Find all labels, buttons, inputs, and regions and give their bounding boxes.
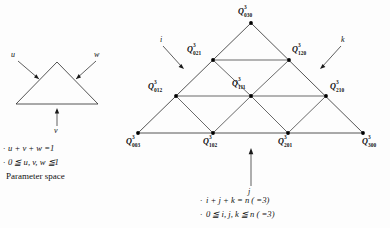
q-sup: 3 (368, 134, 371, 140)
q-sup: 3 (238, 76, 241, 82)
q-sup: 3 (244, 4, 247, 10)
q-sup: 3 (298, 42, 301, 48)
control-point-label-012: Q3012 (148, 81, 165, 93)
arrow-u (18, 61, 39, 79)
figure-svg (0, 0, 390, 228)
parameter-constraint-range-bullet: · (3, 158, 5, 167)
q-sup: 3 (284, 134, 287, 140)
q-sub: 120 (298, 50, 306, 56)
parameter-space-triangle (16, 62, 98, 104)
arrow-i (163, 46, 184, 69)
axis-label-k: k (341, 36, 345, 44)
control-point-label-300: Q3300 (362, 136, 379, 148)
index-constraint-range: 0 ≦ i, j, k ≦ n ( =3) (206, 210, 275, 219)
control-point-label-111: Q3111 (232, 78, 248, 90)
q-sup: 3 (154, 79, 157, 85)
q-sub: 021 (193, 50, 201, 56)
q-sub: 003 (132, 142, 140, 148)
q-sub: 210 (336, 87, 344, 93)
index-constraint-sum: i + j + k = n ( =3) (206, 196, 269, 205)
q-sub: 111 (238, 84, 246, 90)
index-constraint-range-bullet: · (200, 210, 202, 219)
q-sup: 3 (336, 79, 339, 85)
control-point-label-030: Q3030 (238, 6, 255, 18)
q-sub: 102 (209, 142, 217, 148)
arrow-label-u: u (11, 51, 15, 59)
figure-canvas: u w v u + v + w =1 · 0 ≦ u, v, w ≦1 · Pa… (0, 0, 390, 228)
parameter-constraint-range: 0 ≦ u, v, w ≦1 (8, 158, 59, 167)
index-constraint-sum-bullet: · (200, 196, 202, 205)
q-sub: 300 (368, 142, 376, 148)
parameter-constraint-sum-bullet: · (3, 144, 5, 153)
arrow-k (320, 46, 341, 69)
q-sup: 3 (193, 42, 196, 48)
control-point-label-021: Q3021 (187, 44, 204, 56)
arrow-w (76, 61, 96, 79)
q-sub: 201 (284, 142, 292, 148)
arrow-label-v: v (54, 127, 58, 135)
arrow-j (249, 148, 254, 186)
control-point-label-102: Q3102 (203, 136, 220, 148)
parameter-constraint-sum: u + v + w =1 (8, 144, 54, 153)
arrow-v (55, 108, 59, 126)
q-sub: 012 (154, 87, 162, 93)
q-sub: 030 (244, 12, 252, 18)
parameter-space-caption: Parameter space (6, 172, 65, 181)
control-point-label-003: Q3003 (126, 136, 143, 148)
q-sup: 3 (132, 134, 135, 140)
axis-label-i: i (160, 36, 162, 44)
bezier-triangle-net (136, 21, 365, 135)
control-point-label-201: Q3201 (278, 136, 295, 148)
q-sup: 3 (209, 134, 212, 140)
arrow-label-w: w (94, 51, 99, 59)
control-point-label-120: Q3120 (292, 44, 309, 56)
control-point-label-210: Q3210 (330, 81, 347, 93)
